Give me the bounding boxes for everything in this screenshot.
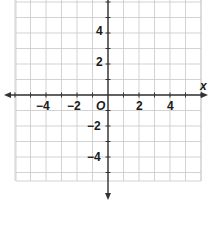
x-tick-label-4: 4 [167, 100, 174, 112]
y-tick-label-4: 4 [96, 25, 103, 37]
x-tick-label-neg2: −2 [67, 100, 81, 112]
x-axis-left-arrow-icon [4, 92, 11, 98]
y-tick-label-neg4: −4 [87, 151, 101, 163]
origin-label: O [96, 100, 105, 112]
x-tick-label-neg4: −4 [36, 100, 50, 112]
y-tick-label-neg2: −2 [87, 120, 101, 132]
y-axis-down-arrow-icon [105, 193, 111, 200]
y-tick-label-2: 2 [96, 56, 103, 68]
x-axis-label: x [200, 80, 207, 92]
x-tick-label-2: 2 [136, 100, 143, 112]
